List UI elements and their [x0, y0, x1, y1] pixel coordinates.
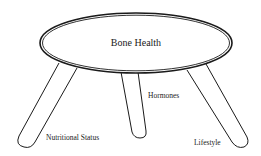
- leg-lifestyle: [187, 64, 248, 147]
- leg-label-hormones: Hormones: [148, 91, 179, 100]
- seat-label: Bone Health: [111, 37, 161, 48]
- leg-label-lifestyle: Lifestyle: [194, 138, 221, 147]
- leg-hormones: [121, 72, 146, 138]
- leg-label-nutritional-status: Nutritional Status: [46, 133, 99, 142]
- stool-diagram: Bone Health Hormones Nutritional Status …: [0, 0, 261, 156]
